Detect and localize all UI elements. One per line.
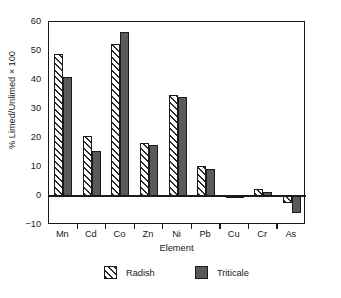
- legend-item-radish: Radish: [104, 266, 155, 279]
- y-axis-tick-label: 0: [36, 189, 41, 202]
- x-axis-tick-mark: [77, 224, 78, 229]
- y-axis-tick-label: 20: [31, 131, 41, 144]
- bar-radish-zn: [140, 143, 149, 196]
- x-axis-tick-mark: [134, 224, 135, 229]
- x-axis-tick-mark: [248, 224, 249, 229]
- y-axis-tick-label: 50: [31, 44, 41, 57]
- chart-legend: Radish Triticale: [48, 266, 305, 288]
- bar-radish-pb: [197, 166, 206, 196]
- bar-radish-co: [111, 44, 120, 196]
- bar-radish-ni: [169, 95, 178, 196]
- y-axis-tick-label: 40: [31, 73, 41, 86]
- y-axis-tick-label: −10: [26, 218, 41, 231]
- y-axis-tick-label: 10: [31, 160, 41, 173]
- bar-triticale-zn: [149, 145, 158, 196]
- x-axis-tick-mark: [105, 224, 106, 229]
- y-axis-label: % Limed/Unlimed × 100: [7, 15, 17, 185]
- x-axis-label: Element: [48, 243, 305, 253]
- x-axis-tick-label-as: As: [271, 229, 311, 239]
- plot-area: [48, 21, 305, 224]
- x-axis-tick-mark: [276, 224, 277, 229]
- zero-baseline: [49, 195, 306, 196]
- bar-radish-cd: [83, 136, 92, 196]
- bar-triticale-as: [292, 196, 301, 213]
- legend-item-triticale: Triticale: [195, 266, 249, 279]
- bar-triticale-pb: [206, 169, 215, 196]
- bar-triticale-cd: [92, 151, 101, 196]
- bar-triticale-co: [120, 32, 129, 196]
- legend-label-radish: Radish: [126, 268, 155, 278]
- bar-triticale-mn: [63, 77, 72, 196]
- bar-chart-figure: % Limed/Unlimed × 100 6050403020100−10 M…: [0, 0, 341, 298]
- legend-swatch-radish-icon: [104, 266, 117, 279]
- legend-label-triticale: Triticale: [217, 268, 249, 278]
- y-axis-tick-label: 60: [31, 15, 41, 28]
- x-axis-tick-mark: [219, 224, 220, 229]
- x-axis-tick-mark: [191, 224, 192, 229]
- x-axis-tick-mark: [162, 224, 163, 229]
- y-axis-tick-label: 30: [31, 102, 41, 115]
- bar-radish-mn: [54, 54, 63, 196]
- legend-swatch-triticale-icon: [195, 266, 208, 279]
- bar-radish-as: [283, 196, 292, 203]
- bar-triticale-ni: [178, 97, 187, 196]
